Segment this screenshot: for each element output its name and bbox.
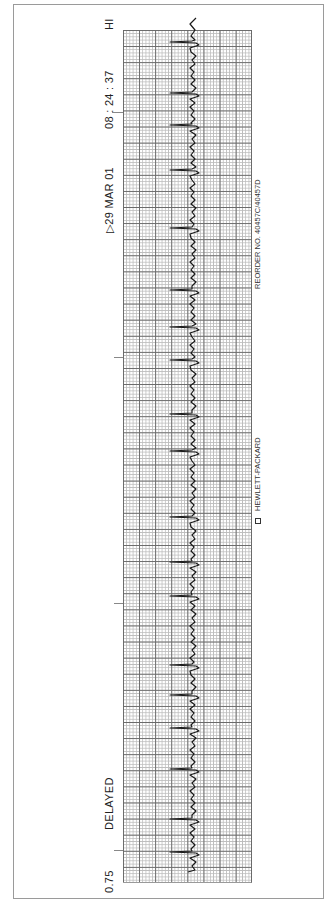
ecg-trace	[0, 0, 333, 909]
